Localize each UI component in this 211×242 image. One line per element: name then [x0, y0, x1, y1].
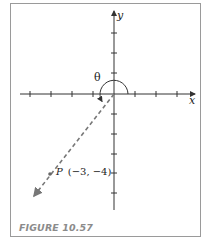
theta-label: θ	[94, 71, 101, 84]
coordinate-plane	[0, 0, 211, 242]
point-p	[48, 172, 52, 176]
y-axis	[111, 11, 117, 210]
x-axis-label: x	[189, 94, 195, 107]
point-name: P	[56, 166, 63, 177]
x-axis	[20, 91, 195, 97]
figure-caption: FIGURE 10.57	[19, 222, 93, 233]
point-coords: (−3, −4)	[68, 166, 112, 177]
dashed-ray	[34, 94, 114, 196]
y-axis-label: y	[117, 9, 123, 22]
point-label: P(−3, −4)	[56, 166, 111, 177]
